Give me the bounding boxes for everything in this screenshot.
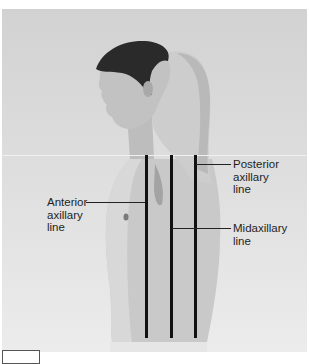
anterior-axillary-label: Anterior axillary line (47, 196, 87, 234)
label-line: line (233, 235, 287, 248)
midaxillary-line (170, 155, 173, 338)
anterior-axillary-line (145, 155, 148, 338)
label-line: Midaxillary (233, 222, 287, 235)
posterior-axillary-label: Posterior axillary line (233, 158, 279, 196)
label-line: line (47, 221, 87, 234)
label-line: Posterior (233, 158, 279, 171)
image-seam (2, 155, 307, 156)
figure-tag-box (2, 350, 40, 364)
posterior-axillary-line (194, 155, 197, 338)
posterior-leader (196, 164, 231, 165)
anterior-leader (86, 202, 145, 203)
label-line: axillary (47, 209, 87, 222)
midaxillary-leader (172, 228, 231, 229)
label-line: axillary (233, 171, 279, 184)
label-line: line (233, 183, 279, 196)
midaxillary-label: Midaxillary line (233, 222, 287, 247)
label-line: Anterior (47, 196, 87, 209)
